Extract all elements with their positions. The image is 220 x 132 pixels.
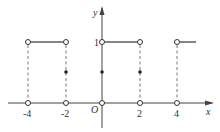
- x-axis-arrow-icon: [205, 101, 214, 106]
- y-axis-arrow-icon: [100, 6, 105, 15]
- tick-label-y1: 1: [94, 37, 99, 48]
- tick-label-4: 4: [174, 108, 179, 119]
- y-axis-label: y: [92, 7, 98, 18]
- step-function-plot: -4 -2 2 4 1 O x y: [0, 0, 220, 132]
- origin-label: O: [91, 104, 98, 115]
- filled-midpoints: [64, 70, 142, 74]
- tick-label-2: 2: [137, 108, 142, 119]
- tick-label-neg4: -4: [23, 108, 31, 119]
- tick-label-neg2: -2: [61, 108, 69, 119]
- x-axis-label: x: [205, 106, 211, 117]
